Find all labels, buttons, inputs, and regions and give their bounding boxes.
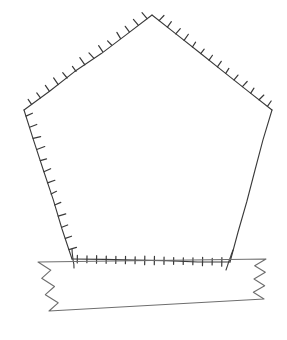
pentagon-banner-drawing [0,0,287,340]
figure-root [0,0,287,340]
